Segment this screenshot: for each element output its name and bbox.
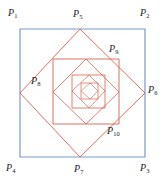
outer-square [20,29,145,157]
square-7 [81,83,98,99]
vertex-label-p3: P3 [140,163,149,173]
vertex-label-p7-sub: 7 [80,168,83,175]
square-2 [20,29,145,157]
vertex-label-p2-sub: 2 [146,12,149,19]
vertex-label-p3-sub: 3 [146,167,149,174]
vertex-label-p7: P7 [74,164,83,174]
vertex-label-p1-sub: 1 [14,12,17,19]
square-8 [81,83,98,99]
nested-squares-svg [0,0,165,189]
vertex-label-p10-sub: 10 [113,130,120,137]
vertex-label-p8-sub: 8 [37,80,40,87]
vertex-label-p6: P6 [148,85,157,95]
vertex-label-p5: P5 [73,9,82,19]
vertex-label-p8: P8 [31,76,40,86]
square-3 [53,59,119,124]
square-6 [72,75,105,108]
vertex-label-p9-sub: 9 [115,48,118,55]
vertex-label-p9: P9 [109,44,118,54]
vertex-label-p4: P4 [6,163,15,173]
vertex-label-p10: P10 [107,126,120,136]
vertex-label-p6-sub: 6 [154,89,157,96]
vertex-label-p4-sub: 4 [12,167,15,174]
square-4 [53,59,119,124]
square-5 [72,75,105,108]
geometry-figure: P1 P2 P3 P4 P5 P6 P7 P8 P9 P10 [0,0,165,189]
vertex-label-p2: P2 [140,8,149,18]
vertex-label-p1: P1 [8,8,17,18]
vertex-label-p5-sub: 5 [79,13,82,20]
squares-layer [20,29,145,157]
